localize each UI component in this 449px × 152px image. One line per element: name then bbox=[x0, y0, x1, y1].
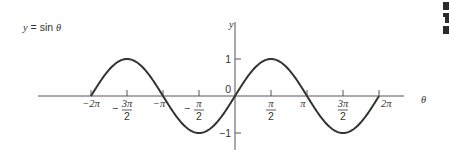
x-tick: 2π bbox=[379, 90, 392, 109]
y-axis-label: y bbox=[228, 19, 234, 30]
x-tick: 3π2 bbox=[337, 90, 349, 122]
svg-text:3π: 3π bbox=[121, 98, 133, 109]
y-tick: 1 bbox=[225, 53, 241, 65]
svg-text:1: 1 bbox=[225, 53, 231, 65]
svg-text:π: π bbox=[196, 98, 202, 109]
x-ticks: −2π−3π2−π−π2π2π3π22π bbox=[82, 90, 392, 122]
svg-text:2: 2 bbox=[196, 110, 202, 122]
svg-text:0: 0 bbox=[225, 83, 231, 95]
y-tick: −1 bbox=[219, 127, 241, 139]
x-tick: π2 bbox=[266, 90, 276, 122]
svg-text:2: 2 bbox=[340, 110, 346, 122]
x-tick: −π bbox=[153, 90, 166, 109]
y-tick: 0 bbox=[225, 83, 231, 95]
svg-text:2π: 2π bbox=[381, 98, 392, 109]
equation-label: y = sin θ bbox=[22, 21, 61, 33]
svg-text:2: 2 bbox=[268, 110, 274, 122]
x-tick: −2π bbox=[82, 90, 100, 109]
svg-text:y = sin θ: y = sin θ bbox=[22, 21, 61, 33]
x-tick: −π2 bbox=[184, 90, 204, 122]
svg-text:3π: 3π bbox=[337, 98, 349, 109]
svg-text:π: π bbox=[300, 98, 306, 109]
svg-text:−2π: −2π bbox=[82, 98, 100, 109]
svg-text:−1: −1 bbox=[219, 127, 231, 139]
x-axis-label: θ bbox=[421, 94, 426, 105]
svg-text:π: π bbox=[268, 98, 274, 109]
svg-text:−π: −π bbox=[153, 98, 166, 109]
svg-text:−: − bbox=[184, 102, 190, 114]
svg-text:−: − bbox=[112, 102, 118, 114]
sine-chart: y = sin θ y θ −2π−3π2−π−π2π2π3π22π 10−1 bbox=[0, 0, 449, 152]
svg-text:2: 2 bbox=[124, 110, 130, 122]
x-tick: −3π2 bbox=[112, 90, 133, 122]
